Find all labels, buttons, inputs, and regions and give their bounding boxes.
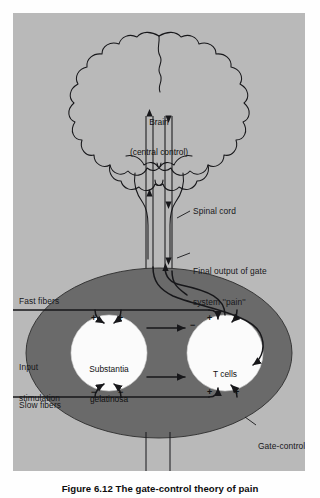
sign-sg-top-right: + [118, 314, 123, 323]
fast-fibers-label: Fast fibers [19, 296, 59, 306]
sign-sg-bottom-right: − [118, 388, 123, 397]
sign-sg-top-left: + [91, 314, 96, 323]
input-stimulation-line1: Input [19, 362, 60, 372]
substantia-gelatinosa-label: Substantia gelatinosa [71, 344, 147, 424]
sign-t-top-left: + [207, 314, 212, 323]
brain-label-line2: (central control) [81, 147, 237, 157]
final-output-line1: Final output of gate [193, 266, 267, 276]
gate-control-system-label: Gate-control system [258, 421, 305, 471]
sign-sg-out-upper: − [190, 321, 195, 330]
t-cells-label: T cells [189, 349, 261, 399]
t-cells-label-line1: T cells [189, 369, 261, 379]
sign-t-bottom-left: + [207, 388, 212, 397]
spinal-cord-label: Spinal cord [193, 206, 236, 216]
slow-fibers-label: Slow fibers [19, 400, 61, 410]
illustration-panel: Brain (central control) Substantia gelat… [13, 13, 305, 471]
sign-sg-bottom-left: − [91, 388, 96, 397]
gate-control-line1: Gate-control [258, 441, 305, 451]
figure-caption: Figure 6.12 The gate-control theory of p… [0, 483, 320, 494]
brain-label-line1: Brain [81, 117, 237, 127]
sign-t-bottom-right: + [234, 388, 239, 397]
input-stimulation-label: Input stimulation [19, 342, 60, 424]
sign-t-top-right: + [234, 314, 239, 323]
brain-node-label: Brain (central control) [81, 97, 237, 177]
ascending-output-arrow [162, 263, 168, 271]
substantia-label-line1: Substantia [71, 364, 147, 374]
final-output-line2: system ''pain'' [193, 297, 267, 307]
substantia-label-line2: gelatinosa [71, 394, 147, 404]
figure-root: Brain (central control) Substantia gelat… [0, 0, 320, 498]
final-output-label: Final output of gate system ''pain'' [193, 246, 267, 328]
